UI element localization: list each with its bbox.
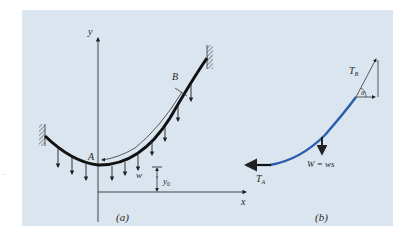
tension-B-sub: B <box>355 71 359 77</box>
x-axis-label: x <box>240 196 246 207</box>
right-support-hatch <box>207 45 213 69</box>
left-support-hatch <box>39 124 45 146</box>
caption-a: (a) <box>116 211 129 224</box>
point-B-label: B <box>172 71 178 82</box>
cable-diagram: · y x A B <box>0 0 415 242</box>
y-axis-label: y <box>87 26 93 37</box>
stray-mark: · <box>3 171 5 179</box>
caption-b: (b) <box>315 211 328 224</box>
weight-label: W = ws <box>307 159 335 169</box>
angle-label: θ <box>361 89 365 97</box>
figure-panel <box>22 10 393 226</box>
tension-A-sub: A <box>261 179 266 185</box>
point-A-label: A <box>87 151 95 162</box>
load-label: w <box>136 170 142 180</box>
y0-label-sub: 0 <box>167 181 170 187</box>
